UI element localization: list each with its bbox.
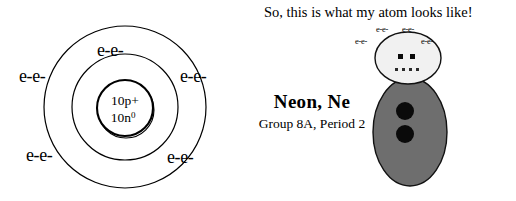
nucleus-proton-label: 10p+ — [111, 93, 139, 108]
element-group-period-label: Group 8A, Period 2 — [242, 116, 382, 132]
element-name-label: Neon, Ne — [242, 91, 382, 113]
bohr-model-svg: 10p+ 10n0 — [0, 0, 258, 201]
character-eye-right — [410, 54, 415, 59]
head-electron-side-left: e-e- — [355, 37, 367, 46]
character-mouth-dot-3 — [409, 68, 412, 71]
shell-label-inner-top: e-e- — [97, 41, 123, 59]
character-eye-left — [398, 54, 403, 59]
shell-label-outer-right: e-e- — [180, 67, 206, 85]
nucleus-circle — [97, 80, 153, 136]
cartoon-atom-svg — [362, 26, 458, 194]
character-button-lower — [396, 125, 414, 143]
bohr-model-diagram: 10p+ 10n0 e-e- e-e- e-e- e-e- e-e- — [0, 0, 258, 201]
speech-caption: So, this is what my atom looks like! — [264, 5, 473, 21]
character-mouth-dot-1 — [395, 68, 398, 71]
shell-label-outer-bottom-right: e-e- — [167, 148, 193, 166]
character-mouth-dot-4 — [416, 68, 419, 71]
character-button-upper — [396, 102, 414, 120]
shell-label-outer-bottom-left: e-e- — [26, 146, 52, 164]
nucleus-neutron-base: 10n — [111, 110, 132, 125]
atom-illustration-canvas: 10p+ 10n0 e-e- e-e- e-e- e-e- e-e- So, t… — [0, 0, 516, 201]
character-panel: So, this is what my atom looks like! Neo… — [258, 0, 516, 201]
character-mouth-dot-2 — [402, 68, 405, 71]
shell-label-outer-left: e-e- — [19, 67, 45, 85]
head-electron-side-right: e-e- — [421, 37, 433, 46]
head-electron-top-right: e-e- — [402, 25, 414, 34]
cartoon-atom-character: e-e- e-e- e-e- e-e- — [362, 26, 458, 194]
head-electron-top-left: e-e- — [376, 25, 388, 34]
nucleus-neutron-superscript: 0 — [131, 110, 136, 120]
